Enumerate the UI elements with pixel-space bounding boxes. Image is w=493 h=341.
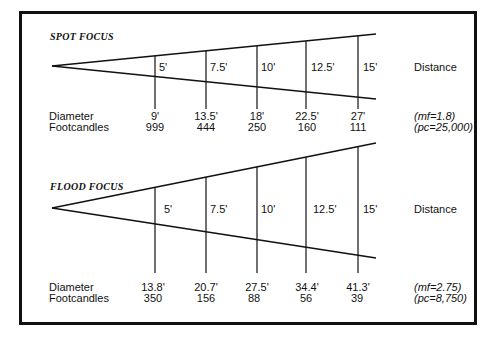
flood-focus-title: FLOOD FOCUS <box>50 181 124 192</box>
spot-footcandles-value: 111 <box>350 121 367 133</box>
flood-footcandles-label: Footcandles <box>49 292 109 304</box>
flood-beam-cone <box>52 143 376 258</box>
flood-footcandles-value: 56 <box>300 292 312 304</box>
flood-pc: (pc=8,750) <box>414 292 467 304</box>
spot-distance-12-5: 12.5' <box>311 61 335 73</box>
spot-footcandles-value: 999 <box>146 121 164 133</box>
spot-pc: (pc=25,000) <box>414 121 473 133</box>
flood-footcandles-value: 156 <box>197 292 215 304</box>
spot-footcandles-value: 250 <box>248 121 266 133</box>
spot-footcandles-value: 160 <box>298 121 316 133</box>
spot-distance-5: 5' <box>159 61 167 73</box>
spot-distance-10: 10' <box>261 61 275 73</box>
flood-footcandles-value: 39 <box>351 292 363 304</box>
flood-distance-10: 10' <box>261 203 275 215</box>
flood-distance-5: 5' <box>164 203 172 215</box>
spot-distance-15: 15' <box>363 61 377 73</box>
flood-distance-15: 15' <box>363 203 377 215</box>
flood-footcandles-value: 88 <box>248 292 260 304</box>
flood-footcandles-value: 350 <box>144 292 162 304</box>
spot-footcandles-value: 444 <box>197 121 215 133</box>
flood-distance-12-5: 12.5' <box>313 203 337 215</box>
spot-footcandles-label: Footcandles <box>49 121 109 133</box>
spot-distance-7-5: 7.5' <box>210 61 227 73</box>
flood-distance-7-5: 7.5' <box>210 203 227 215</box>
spot-focus-title: SPOT FOCUS <box>50 31 114 42</box>
flood-distance-label: Distance <box>414 203 457 215</box>
spot-distance-label: Distance <box>414 61 457 73</box>
